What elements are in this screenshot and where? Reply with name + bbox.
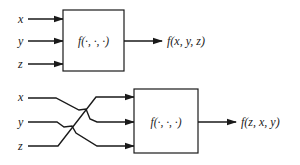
top-function-label: f(·, ·, ·) (78, 35, 109, 48)
top-diagram: x y z f(·, ·, ·) f(x, y, z) (17, 10, 205, 71)
wire-x-to-middle (28, 98, 134, 122)
function-diagram: x y z f(·, ·, ·) f(x, y, z) x y z f(·, ·… (0, 0, 300, 165)
bottom-diagram: x y z f(·, ·, ·) f(z, x, y) (17, 89, 280, 153)
top-output-label: f(x, y, z) (167, 34, 205, 48)
bottom-input-x-label: x (17, 90, 24, 104)
bottom-output-label: f(z, x, y) (241, 115, 280, 129)
top-input-z-label: z (17, 57, 23, 71)
bottom-function-label: f(·, ·, ·) (151, 116, 182, 129)
top-input-x-label: x (17, 12, 24, 26)
top-input-y-label: y (17, 34, 24, 48)
bottom-input-y-label: y (17, 115, 24, 129)
wire-y-to-bottom (28, 122, 134, 146)
bottom-input-z-label: z (17, 139, 23, 153)
